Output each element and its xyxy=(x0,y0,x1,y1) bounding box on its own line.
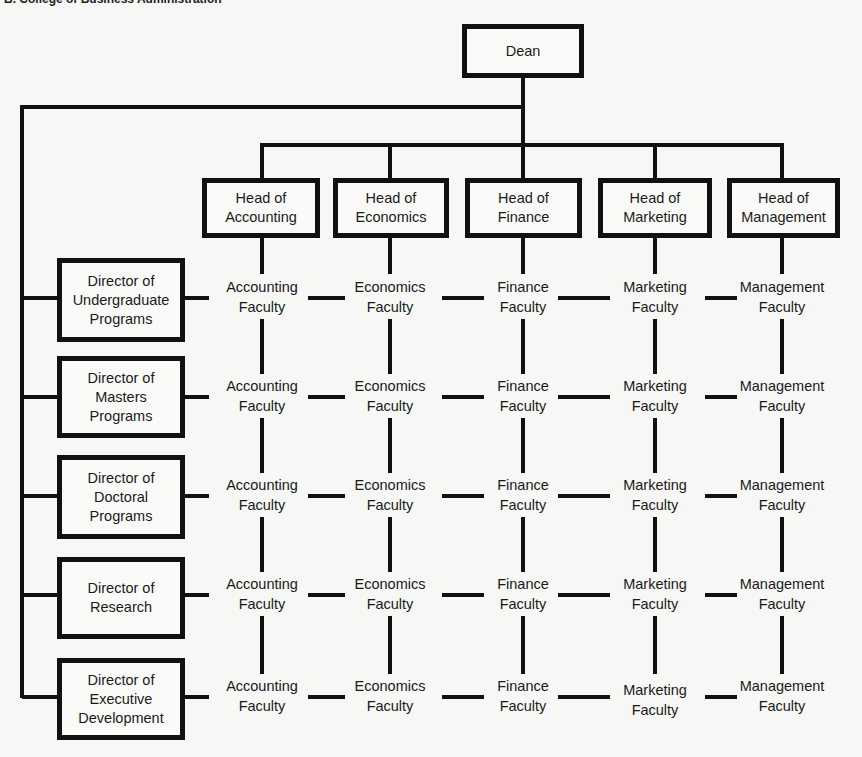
faculty-department: Economics xyxy=(355,477,426,493)
faculty-vertical-connector xyxy=(653,616,657,674)
director-branch xyxy=(22,395,57,399)
head-box-finance: Head ofFinance xyxy=(465,178,582,238)
director-label-line: Research xyxy=(90,598,152,617)
head-title: Head of xyxy=(498,189,549,208)
faculty-word: Faculty xyxy=(632,702,679,718)
faculty-vertical-connector xyxy=(653,418,657,473)
faculty-vertical-connector xyxy=(780,517,784,572)
dean-box: Dean xyxy=(462,24,584,78)
faculty-department: Marketing xyxy=(623,279,687,295)
faculty-department: Accounting xyxy=(226,279,298,295)
faculty-vertical-connector xyxy=(653,319,657,374)
faculty-vertical-connector xyxy=(260,418,264,473)
director-label-line: Doctoral xyxy=(94,488,148,507)
director-to-faculty-connector xyxy=(185,494,209,498)
dean-stem xyxy=(521,78,525,146)
faculty-cell-marketing: MarketingFaculty xyxy=(600,475,710,515)
head-to-faculty-connector xyxy=(388,238,392,274)
faculty-department: Accounting xyxy=(226,378,298,394)
faculty-cell-economics: EconomicsFaculty xyxy=(335,676,445,716)
head-title: Head of xyxy=(758,189,809,208)
director-to-faculty-connector xyxy=(185,296,209,300)
head-department: Economics xyxy=(356,208,427,227)
faculty-department: Accounting xyxy=(226,477,298,493)
faculty-word: Faculty xyxy=(500,299,547,315)
faculty-word: Faculty xyxy=(239,299,286,315)
head-department: Management xyxy=(741,208,826,227)
director-branch xyxy=(22,695,57,699)
faculty-vertical-connector xyxy=(388,418,392,473)
head-box-management: Head ofManagement xyxy=(727,178,840,238)
faculty-cell-marketing: MarketingFaculty xyxy=(600,376,710,416)
director-label-line: Programs xyxy=(90,310,153,329)
director-branch xyxy=(22,296,57,300)
head-department: Finance xyxy=(498,208,550,227)
faculty-department: Finance xyxy=(497,378,549,394)
faculty-department: Finance xyxy=(497,678,549,694)
faculty-department: Finance xyxy=(497,576,549,592)
faculty-word: Faculty xyxy=(632,596,679,612)
faculty-word: Faculty xyxy=(632,299,679,315)
director-label-line: Director of xyxy=(88,369,155,388)
faculty-word: Faculty xyxy=(632,398,679,414)
director-label-line: Masters xyxy=(95,388,147,407)
faculty-word: Faculty xyxy=(367,299,414,315)
faculty-cell-economics: EconomicsFaculty xyxy=(335,475,445,515)
head-to-faculty-connector xyxy=(653,238,657,274)
faculty-vertical-connector xyxy=(521,319,525,374)
director-label-line: Development xyxy=(78,709,163,728)
faculty-department: Accounting xyxy=(226,678,298,694)
director-box: Director ofResearch xyxy=(57,557,185,639)
faculty-word: Faculty xyxy=(367,497,414,513)
director-label-line: Director of xyxy=(88,469,155,488)
faculty-cell-marketing: MarketingFaculty xyxy=(600,680,710,720)
head-to-faculty-connector xyxy=(521,238,525,274)
director-to-faculty-connector xyxy=(185,593,209,597)
director-box: Director ofUndergraduatePrograms xyxy=(57,258,185,342)
director-label-line: Programs xyxy=(90,407,153,426)
head-department: Marketing xyxy=(623,208,687,227)
faculty-word: Faculty xyxy=(759,299,806,315)
faculty-cell-management: ManagementFaculty xyxy=(727,475,837,515)
faculty-vertical-connector xyxy=(521,418,525,473)
faculty-cell-economics: EconomicsFaculty xyxy=(335,376,445,416)
director-to-faculty-connector xyxy=(185,395,209,399)
dean-label: Dean xyxy=(506,42,541,61)
faculty-word: Faculty xyxy=(500,698,547,714)
faculty-cell-accounting: AccountingFaculty xyxy=(207,676,317,716)
head-branch xyxy=(521,143,525,179)
faculty-word: Faculty xyxy=(759,596,806,612)
faculty-department: Economics xyxy=(355,378,426,394)
figure-caption: B. College of Business Administration xyxy=(4,0,222,6)
head-to-faculty-connector xyxy=(260,238,264,274)
faculty-vertical-connector xyxy=(388,517,392,572)
faculty-department: Management xyxy=(740,576,825,592)
faculty-word: Faculty xyxy=(759,398,806,414)
faculty-cell-accounting: AccountingFaculty xyxy=(207,277,317,317)
faculty-vertical-connector xyxy=(653,517,657,572)
head-branch xyxy=(653,143,657,179)
faculty-department: Management xyxy=(740,279,825,295)
faculty-cell-accounting: AccountingFaculty xyxy=(207,376,317,416)
faculty-vertical-connector xyxy=(260,517,264,572)
faculty-department: Finance xyxy=(497,279,549,295)
head-title: Head of xyxy=(366,189,417,208)
faculty-word: Faculty xyxy=(239,698,286,714)
faculty-word: Faculty xyxy=(759,698,806,714)
faculty-word: Faculty xyxy=(239,596,286,612)
faculty-vertical-connector xyxy=(780,418,784,473)
faculty-vertical-connector xyxy=(388,319,392,374)
head-department: Accounting xyxy=(225,208,297,227)
faculty-department: Economics xyxy=(355,678,426,694)
director-branch xyxy=(22,494,57,498)
faculty-department: Management xyxy=(740,678,825,694)
faculty-word: Faculty xyxy=(239,497,286,513)
director-branch xyxy=(22,593,57,597)
faculty-department: Accounting xyxy=(226,576,298,592)
director-label-line: Undergraduate xyxy=(73,291,170,310)
head-box-marketing: Head ofMarketing xyxy=(598,178,712,238)
head-title: Head of xyxy=(236,189,287,208)
faculty-word: Faculty xyxy=(500,497,547,513)
head-branch xyxy=(780,143,784,179)
faculty-vertical-connector xyxy=(388,616,392,674)
